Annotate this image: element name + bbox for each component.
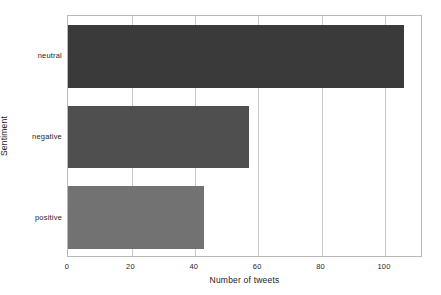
plot-area bbox=[67, 15, 422, 257]
y-axis-ticks: positivenegativeneutral bbox=[0, 0, 62, 295]
y-tick-label: negative bbox=[32, 132, 62, 141]
y-axis-title: Sentiment bbox=[0, 116, 9, 156]
x-tick-label: 80 bbox=[301, 262, 341, 271]
x-axis-title: Number of tweets bbox=[67, 275, 422, 285]
x-tick-label: 20 bbox=[110, 262, 150, 271]
x-tick-label: 40 bbox=[174, 262, 214, 271]
bar-neutral bbox=[68, 25, 404, 88]
bar-positive bbox=[68, 186, 204, 249]
y-tick-label: neutral bbox=[38, 51, 62, 60]
bar-negative bbox=[68, 106, 249, 169]
x-tick-label: 100 bbox=[364, 262, 404, 271]
y-tick-label: positive bbox=[35, 212, 62, 221]
x-tick-label: 60 bbox=[237, 262, 277, 271]
bar-chart-figure: 020406080100 positivenegativeneutral Num… bbox=[0, 0, 441, 295]
